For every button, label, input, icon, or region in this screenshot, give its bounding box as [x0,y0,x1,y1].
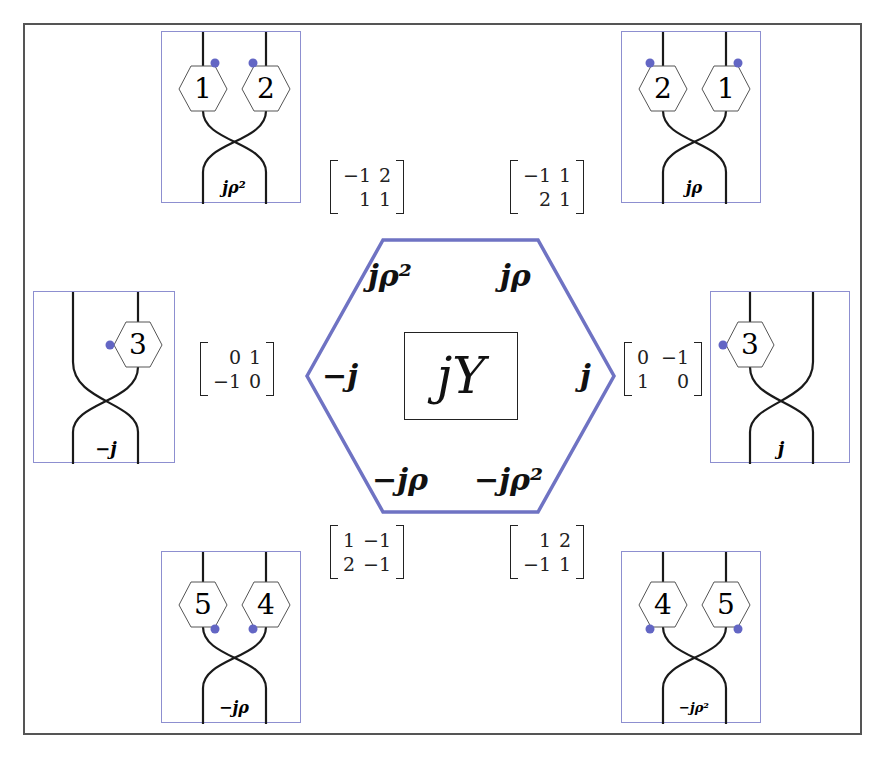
marker-dot [249,59,258,68]
matrix-bottom-left: 1 −1 2 −1 [330,525,404,579]
edge-label-top-right: jρ [500,258,531,293]
matrix-right: 0 −1 1 0 [624,342,702,396]
center-label: jY [437,347,486,405]
matrix-cell: 0 [249,369,261,393]
hex-label: 3 [730,328,770,361]
panel-bottom-right: 4 5 −jρ² [621,551,761,723]
matrix-cell: 1 [379,187,391,211]
marker-dot [106,341,115,350]
matrix-cell: 2 [379,163,391,187]
panel-top-left: 1 2 jρ² [161,31,301,203]
edge-label-bottom-left: −jρ [372,462,428,497]
matrix-cell: −1 [661,345,689,369]
crossing-label: −jρ² [658,700,730,715]
edge-label-right: j [580,358,591,393]
hex-label: 4 [643,588,683,621]
hex-label: 5 [183,588,223,621]
matrix-cell: −1 [523,552,551,576]
matrix-cell: −1 [523,163,551,187]
marker-dot [719,341,728,350]
center-label-box: jY [404,332,518,420]
marker-dot [211,625,220,634]
panel-middle-left: 3 −j [33,291,175,463]
hex-label: 3 [118,328,158,361]
hex-label: 5 [706,588,746,621]
crossing-label: −jρ [198,698,270,717]
crossing-label: −j [76,438,136,459]
matrix-cell: 1 [343,187,371,211]
crossing-label: jρ² [204,178,264,197]
marker-dot [646,625,655,634]
panel-top-right: 2 1 jρ [621,31,761,203]
hex-label: 2 [643,72,683,105]
edge-label-bottom-right: −jρ² [474,462,543,497]
edge-label-top-left: jρ² [368,258,412,293]
hex-label: 1 [706,72,746,105]
panel-bottom-left: 5 4 −jρ [161,551,301,723]
matrix-cell: −1 [363,552,391,576]
marker-dot [249,625,258,634]
matrix-cell: 1 [343,528,355,552]
matrix-cell: −1 [213,369,241,393]
crossing-label: jρ [664,178,724,197]
marker-dot [211,59,220,68]
braid-diagram [622,552,762,724]
hex-label: 4 [246,588,286,621]
matrix-left: 0 1 −1 0 [200,342,274,396]
matrix-cell: 2 [343,552,355,576]
crossing-label: j [751,438,811,459]
matrix-cell: 2 [559,528,571,552]
edge-label-left: −j [322,358,358,393]
marker-dot [734,59,743,68]
matrix-cell: −1 [363,528,391,552]
diagram-canvas: jρ² jρ −j j −jρ −jρ² jY −1 2 1 1 −1 1 2 … [0,0,884,759]
matrix-cell: −1 [343,163,371,187]
matrix-cell: 2 [523,187,551,211]
hex-label: 2 [246,72,286,105]
marker-dot [734,625,743,634]
panel-middle-right: 3 j [710,291,850,463]
matrix-cell: 0 [213,345,241,369]
matrix-top-left: −1 2 1 1 [330,160,404,214]
matrix-cell: 1 [559,187,571,211]
matrix-cell: 1 [559,552,571,576]
matrix-cell: 0 [637,345,649,369]
matrix-cell: 1 [559,163,571,187]
matrix-cell: 1 [637,369,649,393]
marker-dot [646,59,655,68]
matrix-cell: 0 [661,369,689,393]
hex-label: 1 [183,72,223,105]
matrix-cell: 1 [523,528,551,552]
matrix-bottom-right: 1 2 −1 1 [510,525,584,579]
matrix-cell: 1 [249,345,261,369]
matrix-top-right: −1 1 2 1 [510,160,584,214]
